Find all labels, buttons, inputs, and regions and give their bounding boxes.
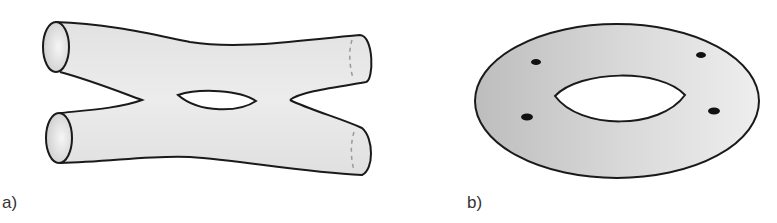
marked-point-2 bbox=[521, 114, 533, 121]
marked-point-1 bbox=[531, 59, 541, 65]
marked-point-3 bbox=[696, 52, 706, 58]
marked-point-4 bbox=[708, 108, 720, 115]
tube-cap-bottom-left bbox=[46, 113, 72, 163]
diagram-canvas bbox=[0, 0, 777, 223]
figure-a-surface bbox=[43, 22, 371, 175]
figure-a-label: a) bbox=[2, 193, 17, 213]
figure-b-label: b) bbox=[467, 193, 482, 213]
tube-cap-top-left bbox=[43, 22, 69, 72]
figure-b-annulus bbox=[475, 24, 759, 178]
